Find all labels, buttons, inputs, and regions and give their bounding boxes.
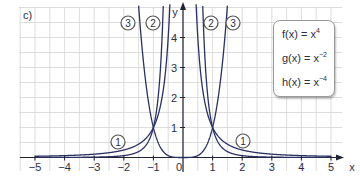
svg-text:y: y: [172, 6, 178, 18]
svg-text:1: 1: [240, 136, 246, 147]
legend-exponent: −2: [319, 51, 327, 58]
svg-text:4: 4: [298, 161, 304, 173]
svg-text:1: 1: [115, 137, 121, 148]
legend-item-h: h(x) = x−4: [282, 75, 327, 88]
svg-text:−3: −3: [88, 161, 101, 173]
svg-text:2: 2: [239, 161, 245, 173]
legend-label: h(x) = x: [282, 76, 319, 88]
svg-text:4: 4: [171, 32, 177, 44]
svg-text:3: 3: [230, 18, 236, 29]
svg-text:−2: −2: [118, 161, 131, 173]
legend-item-f: f(x) = x4: [282, 27, 320, 40]
svg-text:1: 1: [210, 161, 216, 173]
svg-text:2: 2: [171, 92, 177, 104]
legend-box: f(x) = x4 g(x) = x−2 h(x) = x−4: [273, 20, 335, 97]
svg-text:−1: −1: [147, 161, 160, 173]
svg-text:−5: −5: [29, 161, 42, 173]
svg-text:5: 5: [328, 161, 334, 173]
svg-text:2: 2: [150, 18, 156, 29]
part-label: c): [23, 9, 32, 21]
svg-text:3: 3: [171, 62, 177, 74]
svg-text:1: 1: [171, 122, 177, 134]
svg-text:x: x: [349, 161, 355, 173]
svg-text:−4: −4: [58, 161, 71, 173]
legend-item-g: g(x) = x−2: [282, 51, 327, 64]
legend-label: f(x) = x: [282, 28, 316, 40]
legend-exponent: −4: [319, 75, 327, 82]
legend-label: g(x) = x: [282, 52, 319, 64]
svg-text:0: 0: [176, 161, 182, 173]
svg-text:3: 3: [125, 18, 131, 29]
legend-exponent: 4: [316, 27, 320, 34]
svg-text:2: 2: [208, 18, 214, 29]
svg-text:3: 3: [269, 161, 275, 173]
